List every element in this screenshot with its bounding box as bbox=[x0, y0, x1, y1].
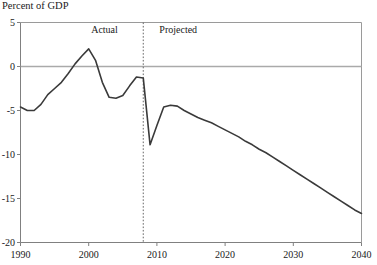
x-tick-label: 1990 bbox=[1, 250, 41, 260]
y-tick-label: -15 bbox=[0, 194, 15, 204]
x-tick-label: 2030 bbox=[273, 250, 313, 260]
plot-area bbox=[0, 0, 377, 265]
y-tick-label: -20 bbox=[0, 238, 15, 248]
y-tick-label: 0 bbox=[0, 62, 15, 72]
actual-label: Actual bbox=[91, 24, 118, 35]
chart-figure: Percent of GDP 50-5-10-15-20199020002010… bbox=[0, 0, 377, 265]
y-tick-label: -10 bbox=[0, 150, 15, 160]
x-tick-label: 2000 bbox=[69, 250, 109, 260]
x-tick-label: 2040 bbox=[342, 250, 377, 260]
x-tick-label: 2020 bbox=[205, 250, 245, 260]
y-tick-label: -5 bbox=[0, 106, 15, 116]
x-tick-label: 2010 bbox=[137, 250, 177, 260]
projected-label: Projected bbox=[159, 24, 197, 35]
y-tick-label: 5 bbox=[0, 18, 15, 28]
data-line-budget-balance bbox=[21, 49, 362, 214]
